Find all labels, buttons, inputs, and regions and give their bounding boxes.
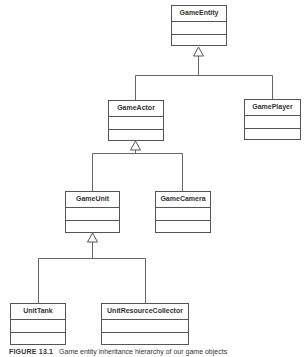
class-attributes-compartment — [102, 320, 188, 333]
figure-caption-text: Game entity inheritance hierarchy of our… — [59, 348, 227, 355]
class-operations-compartment — [245, 129, 300, 141]
class-operations-compartment — [11, 333, 65, 345]
class-attributes-compartment — [66, 208, 119, 221]
class-name: GamePlayer — [245, 100, 300, 116]
class-attributes-compartment — [156, 208, 210, 221]
class-box-game-actor: GameActor — [108, 100, 164, 141]
class-name: GameActor — [109, 101, 163, 117]
class-box-game-entity: GameEntity — [171, 5, 227, 46]
figure-caption: FIGURE 13.1 Game entity inheritance hier… — [9, 347, 227, 357]
class-box-game-player: GamePlayer — [244, 99, 301, 140]
class-name: UnitResourceCollector — [102, 304, 188, 320]
class-attributes-compartment — [11, 320, 65, 333]
class-box-game-unit: GameUnit — [65, 191, 120, 233]
class-operations-compartment — [66, 221, 119, 233]
class-box-unit-tank: UnitTank — [10, 303, 66, 345]
class-attributes-compartment — [245, 116, 300, 129]
class-box-game-camera: GameCamera — [155, 191, 211, 233]
class-operations-compartment — [172, 35, 226, 47]
class-attributes-compartment — [172, 22, 226, 35]
generalization-arrow-icon — [88, 233, 98, 242]
class-name: UnitTank — [11, 304, 65, 320]
figure-label: FIGURE 13.1 — [9, 348, 53, 355]
class-operations-compartment — [102, 333, 188, 345]
class-name: GameUnit — [66, 192, 119, 208]
generalization-arrow-icon — [194, 47, 204, 56]
class-operations-compartment — [156, 221, 210, 233]
class-name: GameEntity — [172, 6, 226, 22]
class-name: GameCamera — [156, 192, 210, 208]
class-operations-compartment — [109, 130, 163, 142]
class-box-unit-resource-collector: UnitResourceCollector — [101, 303, 189, 345]
generalization-arrow-icon — [131, 141, 141, 150]
class-attributes-compartment — [109, 117, 163, 130]
